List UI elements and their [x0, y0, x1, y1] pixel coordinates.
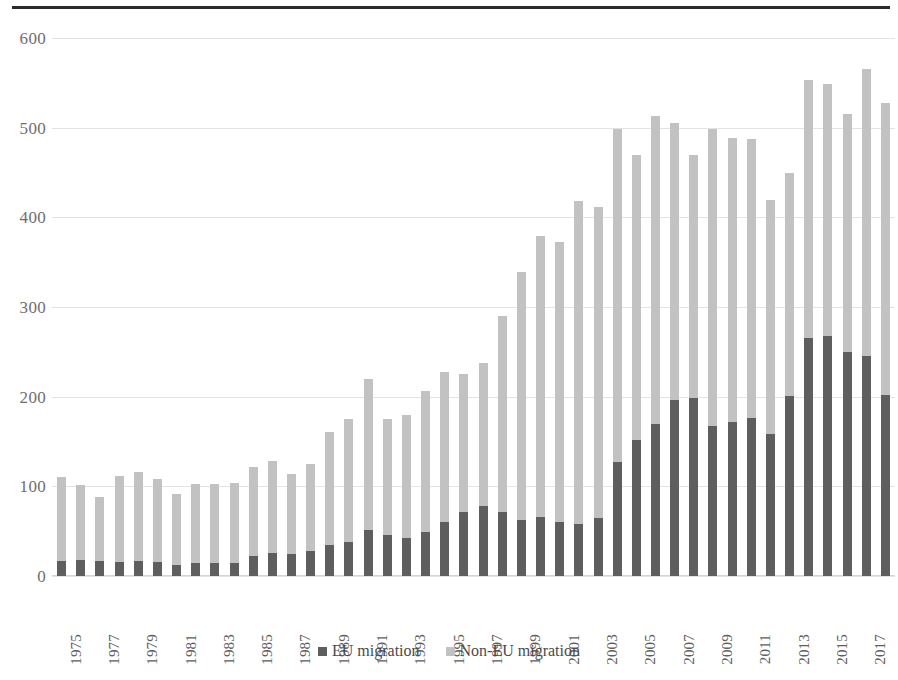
- bar-segment-non-eu-1990: [344, 419, 353, 542]
- bar-1981[interactable]: [172, 494, 181, 576]
- bar-segment-non-eu-1996: [459, 374, 468, 512]
- bar-2015[interactable]: [823, 84, 832, 576]
- bar-2000[interactable]: [536, 236, 545, 576]
- chart-figure: 0100200300400500600 19751977197919811983…: [0, 0, 898, 680]
- bar-1994[interactable]: [421, 391, 430, 576]
- bar-segment-eu-2012: [766, 434, 775, 576]
- bar-2003[interactable]: [594, 207, 603, 576]
- bar-2014[interactable]: [804, 80, 813, 576]
- bar-segment-non-eu-1978: [115, 476, 124, 562]
- bar-segment-non-eu-1985: [249, 467, 258, 557]
- bar-1985[interactable]: [249, 467, 258, 576]
- bar-2016[interactable]: [843, 114, 852, 576]
- bar-1989[interactable]: [325, 432, 334, 576]
- bar-1996[interactable]: [459, 374, 468, 576]
- bar-segment-non-eu-1983: [210, 484, 219, 563]
- plot-area: [52, 38, 895, 576]
- bar-1979[interactable]: [134, 472, 143, 576]
- y-tick-label-500: 500: [2, 119, 46, 136]
- bar-segment-eu-1994: [421, 532, 430, 576]
- bar-2009[interactable]: [708, 129, 717, 576]
- bar-2006[interactable]: [651, 116, 660, 576]
- bar-1997[interactable]: [479, 363, 488, 576]
- bar-segment-eu-1977: [95, 561, 104, 576]
- bar-1988[interactable]: [306, 464, 315, 576]
- bar-1990[interactable]: [344, 419, 353, 576]
- bar-1991[interactable]: [364, 379, 373, 576]
- bar-segment-eu-1990: [344, 542, 353, 576]
- bar-1975[interactable]: [57, 477, 66, 576]
- bar-1995[interactable]: [440, 372, 449, 576]
- top-divider-rule: [12, 6, 890, 9]
- bar-segment-eu-1976: [76, 560, 85, 576]
- bar-segment-eu-2010: [728, 422, 737, 576]
- bar-2001[interactable]: [555, 242, 564, 576]
- bar-2005[interactable]: [632, 155, 641, 576]
- gridline-0: [52, 576, 895, 577]
- bar-segment-non-eu-2005: [632, 155, 641, 440]
- bar-segment-eu-1981: [172, 565, 181, 576]
- bar-segment-non-eu-1992: [383, 419, 392, 535]
- bar-1980[interactable]: [153, 479, 162, 576]
- bar-segment-non-eu-2000: [536, 236, 545, 517]
- bar-segment-eu-1982: [191, 563, 200, 576]
- bar-segment-eu-2018: [881, 395, 890, 576]
- bar-segment-eu-2009: [708, 426, 717, 576]
- bar-segment-non-eu-1988: [306, 464, 315, 551]
- bar-segment-eu-2001: [555, 522, 564, 576]
- bar-1992[interactable]: [383, 419, 392, 576]
- bar-1998[interactable]: [498, 316, 507, 576]
- bar-segment-non-eu-1991: [364, 379, 373, 531]
- bar-1984[interactable]: [230, 483, 239, 576]
- bar-segment-non-eu-1982: [191, 484, 200, 564]
- bar-segment-non-eu-2018: [881, 103, 890, 395]
- bar-segment-non-eu-1998: [498, 316, 507, 512]
- bar-1976[interactable]: [76, 485, 85, 576]
- bar-2017[interactable]: [862, 69, 871, 577]
- bar-1978[interactable]: [115, 476, 124, 576]
- y-tick-label-200: 200: [2, 388, 46, 405]
- bar-1999[interactable]: [517, 272, 526, 576]
- bar-segment-eu-1978: [115, 562, 124, 576]
- bar-segment-non-eu-1980: [153, 479, 162, 561]
- bar-segment-non-eu-1999: [517, 272, 526, 520]
- bar-2004[interactable]: [613, 129, 622, 576]
- bar-2018[interactable]: [881, 103, 890, 576]
- bar-segment-non-eu-1989: [325, 432, 334, 545]
- bar-2010[interactable]: [728, 138, 737, 576]
- bar-segment-non-eu-1976: [76, 485, 85, 560]
- bar-1983[interactable]: [210, 484, 219, 576]
- bar-1993[interactable]: [402, 415, 411, 576]
- x-axis: 1975197719791981198319851987198919911993…: [52, 578, 895, 636]
- bar-segment-eu-2007: [670, 400, 679, 576]
- bar-2008[interactable]: [689, 155, 698, 576]
- bar-segment-non-eu-1994: [421, 391, 430, 532]
- legend-item-non-eu-migration[interactable]: Non-EU migration: [446, 643, 580, 659]
- bar-segment-eu-1992: [383, 535, 392, 576]
- bar-segment-non-eu-1981: [172, 494, 181, 566]
- bar-2013[interactable]: [785, 173, 794, 576]
- bar-segment-non-eu-2008: [689, 155, 698, 399]
- bar-segment-eu-2002: [574, 524, 583, 576]
- bar-1987[interactable]: [287, 474, 296, 576]
- bar-1982[interactable]: [191, 484, 200, 576]
- bar-segment-non-eu-1986: [268, 461, 277, 552]
- bar-2012[interactable]: [766, 200, 775, 576]
- bar-segment-eu-2017: [862, 356, 871, 576]
- gridline-500: [52, 128, 895, 129]
- bar-segment-non-eu-2017: [862, 69, 871, 357]
- y-tick-label-600: 600: [2, 30, 46, 47]
- bar-segment-eu-1984: [230, 563, 239, 576]
- bar-1977[interactable]: [95, 497, 104, 576]
- bar-segment-eu-1989: [325, 545, 334, 576]
- bar-segment-non-eu-2014: [804, 80, 813, 338]
- bar-1986[interactable]: [268, 461, 277, 576]
- bar-2011[interactable]: [747, 139, 756, 576]
- legend-item-eu-migration[interactable]: EU migration: [318, 643, 420, 659]
- bar-segment-eu-1995: [440, 522, 449, 576]
- bar-segment-eu-2013: [785, 396, 794, 576]
- bar-segment-non-eu-1984: [230, 483, 239, 563]
- bar-2002[interactable]: [574, 201, 583, 576]
- bar-segment-eu-1986: [268, 553, 277, 576]
- bar-2007[interactable]: [670, 123, 679, 576]
